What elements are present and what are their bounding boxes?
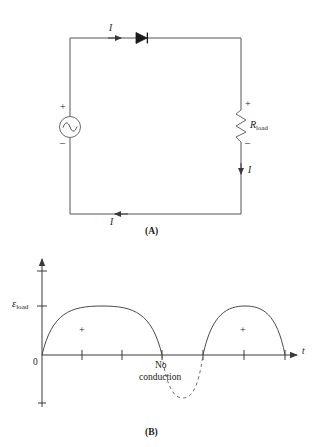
figure-root: I + – + – Rload I I (A) εload 0 t + + No… [0,0,317,447]
waveform-panel [37,259,297,407]
current-label-right: I [248,166,251,176]
load-resistor-label: Rload [250,120,268,130]
circuit-panel [60,33,247,215]
load-resistor-subscript: load [256,124,268,131]
source-minus-sign: – [60,138,65,148]
origin-label: 0 [33,358,38,368]
no-conduction-annotation-line1: No [155,361,167,371]
resistor-plus-sign: + [245,99,251,109]
source-plus-sign: + [60,102,66,112]
no-conduction-annotation-line2: conduction [139,373,181,383]
waveform-conducting-1 [42,306,162,355]
current-label-top: I [109,24,112,34]
current-label-bottom: I [110,218,113,228]
plus-marker-second-hump: + [240,325,246,335]
x-axis-label: t [302,347,305,357]
y-axis-label: εload [12,299,28,310]
y-axis-label-subscript: load [16,303,28,311]
plus-marker-first-hump: + [79,325,85,335]
diode-triangle-icon [136,33,147,44]
caption-panel-a: (A) [145,227,158,237]
resistor-minus-sign: – [245,138,250,148]
caption-panel-b: (B) [145,428,158,438]
